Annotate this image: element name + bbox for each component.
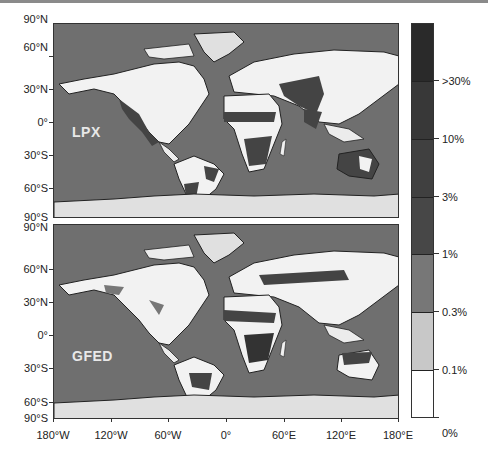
y-tick-mark: [49, 188, 53, 189]
colorbar-divider: [412, 254, 433, 255]
x-tick-mark: [398, 418, 399, 422]
world-map-lpx: [54, 24, 399, 218]
x-tick-label: 120°W: [86, 429, 136, 441]
colorbar-tick: [434, 311, 439, 312]
x-tick-mark: [341, 418, 342, 422]
x-tick-label: 180°W: [28, 429, 78, 441]
y-tick-label: 90°S: [6, 412, 48, 424]
x-tick-label: 180°E: [373, 429, 423, 441]
x-tick-mark: [53, 418, 54, 422]
colorbar-divider: [412, 312, 433, 313]
y-tick-label: 90°N: [6, 221, 48, 233]
colorbar-bin-0.3-1: [412, 254, 433, 312]
colorbar-bin-above-30: [412, 24, 433, 81]
y-tick-mark: [49, 122, 53, 123]
x-tick-mark: [111, 418, 112, 422]
map-panel-gfed: GFED: [53, 224, 399, 419]
y-tick-label: 30°N: [6, 296, 48, 308]
x-tick-mark: [168, 418, 169, 422]
panel-label-lpx: LPX: [72, 124, 101, 140]
x-tick-label: 0°: [201, 429, 251, 441]
y-tick-label: 30°S: [6, 149, 48, 161]
colorbar-label: 1%: [442, 248, 458, 260]
y-tick-mark: [49, 302, 53, 303]
y-tick-label: 30°S: [6, 362, 48, 374]
colorbar-tick: [434, 253, 439, 254]
colorbar-label: >30%: [442, 75, 470, 87]
y-tick-label: 60°N: [6, 41, 48, 53]
y-tick-mark: [49, 155, 53, 156]
colorbar-divider: [412, 139, 433, 140]
colorbar-tick: [434, 417, 439, 418]
y-tick-label: 90°N: [6, 13, 48, 25]
colorbar-divider: [412, 81, 433, 82]
top-rule: [0, 0, 488, 3]
colorbar-tick: [434, 369, 439, 370]
y-tick-mark: [49, 402, 53, 403]
colorbar-divider: [412, 197, 433, 198]
y-tick-label: 0°: [6, 116, 48, 128]
y-tick-mark: [49, 269, 53, 270]
y-tick-mark: [49, 335, 53, 336]
y-tick-label: 60°S: [6, 396, 48, 408]
x-tick-label: 60°W: [143, 429, 193, 441]
panel-label-gfed: GFED: [72, 348, 113, 364]
y-tick-label: 60°S: [6, 182, 48, 194]
colorbar-label: 3%: [442, 191, 458, 203]
y-tick-mark: [49, 56, 53, 57]
y-tick-label: 0°: [6, 329, 48, 341]
x-tick-mark: [284, 418, 285, 422]
colorbar-label: 10%: [442, 133, 464, 145]
x-tick-label: 60°E: [259, 429, 309, 441]
colorbar-bin-0.1-0.3: [412, 312, 433, 370]
colorbar-bin-3-10: [412, 139, 433, 197]
map-panel-lpx: LPX: [53, 23, 399, 218]
colorbar-bin-1-3: [412, 197, 433, 254]
colorbar-label: 0.1%: [442, 364, 467, 376]
x-tick-label: 120°E: [316, 429, 366, 441]
colorbar-bin-10-30: [412, 81, 433, 139]
colorbar-label: 0.3%: [442, 306, 467, 318]
colorbar-divider: [412, 370, 433, 371]
world-map-gfed: [54, 225, 399, 419]
colorbar-tick: [434, 196, 439, 197]
colorbar-tick: [434, 80, 439, 81]
y-tick-mark: [49, 368, 53, 369]
x-tick-mark: [226, 418, 227, 422]
colorbar: [411, 23, 434, 418]
colorbar-bin-0-0.1: [412, 370, 433, 417]
colorbar-label: 0%: [442, 427, 458, 439]
y-tick-label: 60°N: [6, 263, 48, 275]
y-tick-label: 30°N: [6, 83, 48, 95]
colorbar-tick: [434, 138, 439, 139]
y-tick-mark: [49, 89, 53, 90]
